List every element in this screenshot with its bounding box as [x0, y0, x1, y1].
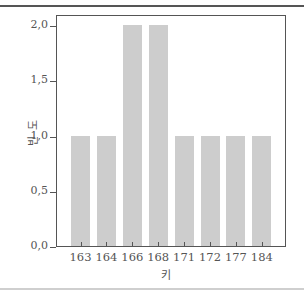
y-tick: [50, 81, 56, 82]
y-tick-label: 0,0: [8, 240, 48, 252]
x-tick: [158, 242, 159, 247]
bar-172: [201, 136, 220, 247]
y-tick-label: 1,5: [8, 74, 48, 86]
bar-177: [226, 136, 245, 247]
x-tick: [262, 242, 263, 247]
bar-163: [71, 136, 90, 247]
bar-164: [97, 136, 116, 247]
x-axis-label: 키: [161, 266, 171, 282]
bar-166: [123, 25, 142, 246]
y-tick: [50, 26, 56, 27]
top-rule: [0, 5, 304, 7]
bottom-rule: [0, 288, 304, 290]
bar-168: [149, 25, 168, 246]
y-tick: [50, 192, 56, 193]
y-tick: [50, 247, 56, 248]
x-tick: [236, 242, 237, 247]
y-tick-label: 2,0: [8, 19, 48, 31]
bar-171: [175, 136, 194, 247]
y-axis-label: 빈도: [24, 114, 40, 146]
x-tick-label: 184: [247, 250, 277, 264]
x-tick: [81, 242, 82, 247]
y-tick-label: 0,5: [8, 185, 48, 197]
x-tick: [210, 242, 211, 247]
bar-184: [252, 136, 271, 247]
x-tick: [132, 242, 133, 247]
plot-area: [56, 15, 286, 247]
x-tick: [184, 242, 185, 247]
x-tick: [106, 242, 107, 247]
y-tick: [50, 137, 56, 138]
